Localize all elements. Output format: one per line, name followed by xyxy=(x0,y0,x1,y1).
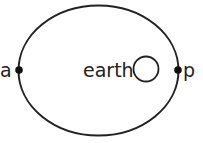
earth-circle xyxy=(134,57,159,82)
apogee-point xyxy=(15,66,23,74)
perigee-label: p xyxy=(183,59,195,81)
orbit-diagram: a earth p xyxy=(0,0,203,143)
earth-label: earth xyxy=(83,59,134,81)
perigee-point xyxy=(174,66,182,74)
apogee-label: a xyxy=(0,59,12,81)
